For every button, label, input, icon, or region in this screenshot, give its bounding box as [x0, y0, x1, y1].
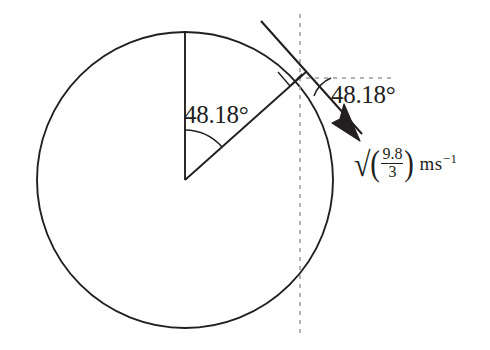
unit-metre: m [419, 153, 434, 174]
speed-label: √ ( 9.8 3 ) ms−1 [354, 146, 457, 181]
open-paren: ( [371, 149, 381, 179]
central-angle-arc [185, 130, 222, 147]
tangent-angle-label: 48.18° [331, 81, 395, 109]
close-paren: ) [405, 149, 415, 179]
unit-second: s [435, 153, 443, 174]
velocity-arrowhead [332, 104, 360, 141]
speed-expression: √ ( 9.8 3 ) [354, 146, 415, 181]
fraction: 9.8 3 [381, 146, 403, 181]
radical-sign-icon: √ [354, 149, 370, 178]
central-angle-label: 48.18° [184, 101, 248, 129]
tangent-angle-arc [314, 78, 331, 96]
unit-exponent: −1 [443, 151, 458, 166]
speed-units: ms−1 [419, 151, 457, 175]
figure-canvas: 48.18° 48.18° √ ( 9.8 3 ) ms−1 [0, 0, 490, 350]
fraction-denominator: 3 [381, 163, 403, 181]
fraction-numerator: 9.8 [381, 146, 403, 163]
